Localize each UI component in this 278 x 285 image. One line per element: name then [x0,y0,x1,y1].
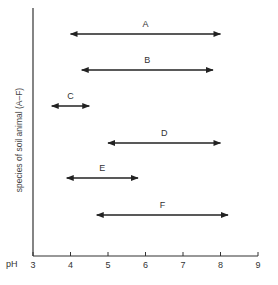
x-tick-label: 9 [255,260,260,270]
species-label: B [144,55,150,65]
range-arrow-e: E [67,163,138,178]
range-arrow-d: D [108,128,221,143]
x-tick-label: 8 [218,260,223,270]
x-tick-label: 3 [30,260,35,270]
range-arrow-c: C [52,91,90,106]
x-tick-label: 4 [68,260,73,270]
species-label: F [160,200,166,210]
species-label: D [161,128,168,138]
x-axis-ticks: 3456789 [30,252,260,270]
ph-range-chart: 3456789 ABCDEF pH species of soil animal… [0,0,278,285]
x-tick-label: 5 [105,260,110,270]
x-axis-label: pH [6,259,18,269]
x-tick-label: 7 [180,260,185,270]
species-label: C [67,91,74,101]
range-arrows: ABCDEF [52,19,228,215]
x-tick-label: 6 [143,260,148,270]
y-axis-label: species of soil animal (A–F) [14,88,24,193]
species-label: A [142,19,148,29]
range-arrow-b: B [82,55,213,70]
species-label: E [99,163,105,173]
range-arrow-a: A [71,19,221,34]
range-arrow-f: F [97,200,228,215]
